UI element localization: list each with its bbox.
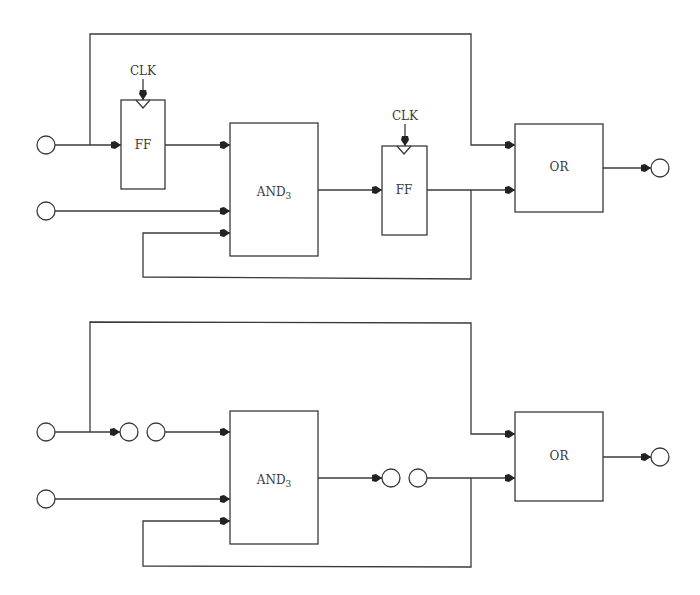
- or-label: OR: [550, 449, 570, 463]
- input-node-1: [37, 136, 55, 154]
- top-circuit: FF CLK AND3 FF CLK OR: [37, 34, 669, 279]
- cut-node-out-2: [409, 469, 427, 487]
- input-node-2: [37, 202, 55, 220]
- ff1-label: FF: [135, 138, 152, 152]
- ff2-label: FF: [396, 183, 413, 197]
- output-node: [651, 448, 669, 466]
- bottom-circuit: AND3 OR: [37, 322, 669, 567]
- cut-node-out-1: [147, 423, 165, 441]
- cut-node-in-1: [120, 423, 138, 441]
- input-node-2: [37, 490, 55, 508]
- output-node: [651, 159, 669, 177]
- input-node-1: [37, 423, 55, 441]
- clk-label-2: CLK: [392, 109, 419, 123]
- clk-label-1: CLK: [130, 64, 157, 78]
- or-label: OR: [550, 160, 570, 174]
- cut-node-in-2: [382, 469, 400, 487]
- circuit-diagram: FF CLK AND3 FF CLK OR: [0, 0, 700, 595]
